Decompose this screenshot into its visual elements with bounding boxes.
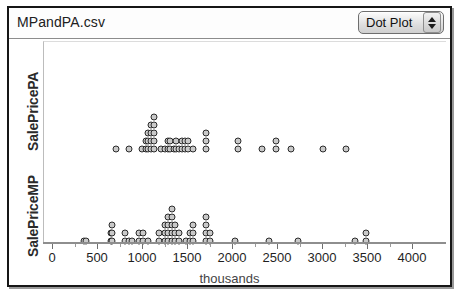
data-point[interactable] bbox=[150, 130, 157, 137]
plot-type-value: Dot Plot bbox=[366, 15, 418, 30]
x-tick-label: 1500 bbox=[173, 250, 202, 265]
x-tick bbox=[142, 244, 143, 249]
x-tick-label: 3000 bbox=[308, 250, 337, 265]
data-point[interactable] bbox=[190, 222, 197, 229]
x-tick bbox=[412, 244, 413, 249]
data-point[interactable] bbox=[150, 114, 157, 121]
plot-type-stepper[interactable] bbox=[423, 12, 441, 33]
x-axis-line bbox=[43, 242, 446, 244]
data-point[interactable] bbox=[122, 230, 129, 237]
data-point[interactable] bbox=[140, 230, 147, 237]
x-tick-minor bbox=[165, 244, 166, 247]
data-point[interactable] bbox=[273, 138, 280, 145]
data-point[interactable] bbox=[235, 138, 242, 145]
x-tick-label: 2000 bbox=[218, 250, 247, 265]
x-tick-minor bbox=[300, 244, 301, 247]
data-point[interactable] bbox=[150, 138, 157, 145]
data-point[interactable] bbox=[206, 230, 213, 237]
data-point[interactable] bbox=[190, 230, 197, 237]
plot-type-dropdown[interactable]: Dot Plot bbox=[358, 11, 444, 34]
x-tick bbox=[52, 244, 53, 249]
data-point[interactable] bbox=[168, 214, 175, 221]
title-bar: MPandPA.csv Dot Plot bbox=[9, 8, 450, 39]
panel-divider bbox=[44, 151, 445, 152]
x-tick bbox=[277, 244, 278, 249]
chart-area: SalePricePA SalePriceMP 0500100015002000… bbox=[9, 39, 450, 285]
data-point[interactable] bbox=[172, 222, 179, 229]
x-tick-label: 1000 bbox=[128, 250, 157, 265]
data-point[interactable] bbox=[203, 222, 210, 229]
data-point[interactable] bbox=[203, 130, 210, 137]
x-tick bbox=[232, 244, 233, 249]
x-tick-label: 2500 bbox=[263, 250, 292, 265]
x-tick-minor bbox=[345, 244, 346, 247]
data-point[interactable] bbox=[109, 230, 116, 237]
y-axis-title-mp: SalePriceMP bbox=[25, 175, 41, 257]
triangle-down-icon[interactable] bbox=[428, 24, 436, 29]
data-point[interactable] bbox=[109, 222, 116, 229]
x-tick-label: 0 bbox=[48, 250, 55, 265]
plot-frame bbox=[43, 41, 446, 244]
x-tick-minor bbox=[120, 244, 121, 247]
data-point[interactable] bbox=[176, 230, 183, 237]
triangle-up-icon[interactable] bbox=[428, 17, 436, 22]
x-tick-minor bbox=[255, 244, 256, 247]
data-point[interactable] bbox=[150, 122, 157, 129]
data-point[interactable] bbox=[203, 214, 210, 221]
data-point[interactable] bbox=[363, 230, 370, 237]
x-tick bbox=[97, 244, 98, 249]
x-tick bbox=[367, 244, 368, 249]
data-point[interactable] bbox=[168, 206, 175, 213]
document-title: MPandPA.csv bbox=[17, 14, 105, 30]
x-tick-minor bbox=[390, 244, 391, 247]
x-tick-label: 4000 bbox=[398, 250, 427, 265]
data-point[interactable] bbox=[203, 138, 210, 145]
data-point[interactable] bbox=[185, 138, 192, 145]
x-tick-minor bbox=[75, 244, 76, 247]
x-tick-label: 500 bbox=[86, 250, 108, 265]
document-window: MPandPA.csv Dot Plot SalePricePA SalePri… bbox=[7, 6, 452, 287]
x-tick bbox=[187, 244, 188, 249]
y-axis-title-pa: SalePricePA bbox=[25, 72, 41, 151]
x-tick-minor bbox=[210, 244, 211, 247]
x-tick bbox=[322, 244, 323, 249]
x-tick-label: 3500 bbox=[353, 250, 382, 265]
x-axis-title: thousands bbox=[9, 271, 450, 285]
